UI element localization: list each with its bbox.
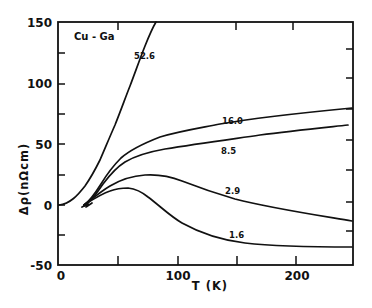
y-axis-ticks-left (58, 53, 65, 235)
curve-2-9 (84, 175, 352, 221)
chart-svg: 150 100 50 0 -50 0 100 200 T (K) Δρ(nΩcm… (0, 0, 372, 308)
x-axis-ticks-top (118, 22, 293, 30)
y-axis-ticks-right (346, 49, 353, 231)
chart-figure: 150 100 50 0 -50 0 100 200 T (K) Δρ(nΩcm… (0, 0, 372, 308)
curve-1-6 (84, 188, 352, 247)
x-axis-ticks-bottom (118, 256, 296, 265)
x-tick-label-200: 200 (284, 269, 309, 283)
curve-label-16-0: 16.0 (222, 116, 243, 126)
y-axis-label: Δρ(nΩcm) (17, 143, 31, 215)
x-axis-label: T (K) (192, 279, 228, 293)
y-tick-label-150: 150 (27, 16, 52, 30)
y-tick-label-minus50: -50 (30, 259, 52, 273)
curve-label-2-9: 2.9 (225, 186, 240, 196)
curve-16-0 (84, 108, 352, 205)
x-tick-label-0: 0 (57, 269, 65, 283)
curve-label-8-5: 8.5 (221, 146, 236, 156)
alloy-annotation: Cu - Ga (74, 31, 115, 42)
curve-label-52-6: 52.6 (134, 51, 155, 61)
y-tick-label-100: 100 (27, 77, 52, 91)
y-tick-label-50: 50 (35, 138, 52, 152)
curve-label-1-6: 1.6 (229, 230, 244, 240)
y-tick-label-0: 0 (44, 199, 52, 213)
x-tick-label-100: 100 (165, 269, 190, 283)
